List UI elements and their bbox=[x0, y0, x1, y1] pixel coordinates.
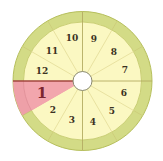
house-label-10: 10 bbox=[66, 33, 79, 43]
houses-wheel: 1 2 3 4 5 6 7 8 9 10 11 12 bbox=[0, 0, 163, 161]
house-label-7: 7 bbox=[122, 65, 128, 75]
house-label-6: 6 bbox=[121, 88, 127, 98]
house-label-11: 11 bbox=[46, 46, 59, 56]
house-label-9: 9 bbox=[91, 34, 97, 44]
house-label-4: 4 bbox=[90, 117, 96, 127]
house-label-8: 8 bbox=[111, 47, 117, 57]
house-label-3: 3 bbox=[69, 115, 75, 125]
center-hub bbox=[73, 72, 92, 91]
house-label-2: 2 bbox=[50, 105, 56, 115]
house-label-1: 1 bbox=[37, 84, 47, 102]
house-label-12: 12 bbox=[36, 66, 49, 76]
house-label-5: 5 bbox=[109, 106, 115, 116]
